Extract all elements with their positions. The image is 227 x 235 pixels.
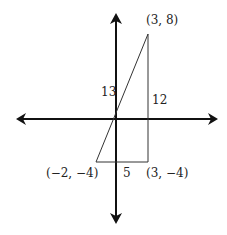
vertex-label-bottom-left: (−2, −4) [46, 166, 98, 180]
coordinate-plane-diagram: (3, 8) (−2, −4) (3, −4) 13 12 5 [0, 0, 227, 235]
side-label-vertical-leg: 12 [152, 93, 167, 107]
side-label-horizontal-leg: 5 [123, 166, 131, 180]
side-label-hypotenuse: 13 [101, 85, 116, 99]
vertex-label-bottom-right: (3, −4) [146, 166, 188, 180]
vertex-label-top: (3, 8) [146, 13, 178, 27]
